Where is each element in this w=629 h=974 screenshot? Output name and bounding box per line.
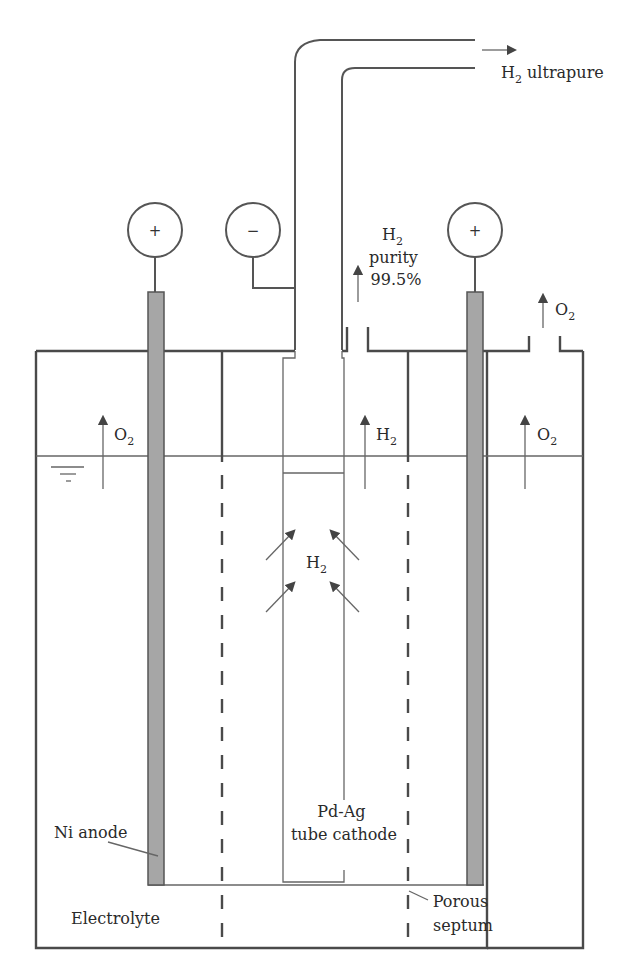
h2-mid-label: H2 [376,425,397,448]
right-ni-anode [467,292,483,885]
cathode-terminal: − [226,203,295,288]
o2-left-label: O2 [114,425,134,448]
right-anode-terminal: + [448,203,502,292]
h2-purity-label: H2 purity 99.5% [369,225,423,289]
left-anode-terminal: + [128,203,182,292]
porous-septum-label: Porous septum [433,892,494,935]
o2-right-label: O2 [537,425,557,448]
o2-vent-label: O2 [555,300,575,323]
cell-container [36,327,583,948]
svg-text:+: + [149,222,162,240]
water-level-icon [51,467,84,481]
h2-ultrapure-label: H2 ultrapure [501,63,604,86]
ni-anode-label: Ni anode [54,823,127,842]
electrolysis-cell-diagram: H2 ultrapure + [0,0,629,974]
h2-tube-label: H2 [306,553,327,576]
left-ni-anode [148,292,164,885]
h2-permeation-arrows [266,533,359,612]
svg-text:+: + [469,222,482,240]
electrolyte-label: Electrolyte [71,909,160,928]
cathode-label: Pd-Ag tube cathode [291,802,397,844]
svg-text:−: − [247,222,260,240]
container-right-wall [487,351,583,948]
septum-leader-line [409,891,428,900]
outlet-pipe [295,40,475,350]
